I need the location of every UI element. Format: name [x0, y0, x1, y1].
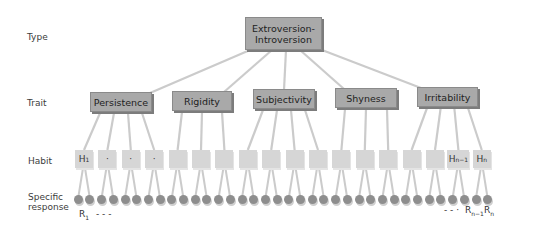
response-node [144, 195, 153, 204]
connector-line [172, 168, 177, 198]
trait-node-persistence: Persistence [90, 92, 152, 112]
response-node [238, 195, 247, 204]
connector-line [429, 168, 434, 198]
level-label-type: Type [27, 32, 48, 42]
connector-line [201, 112, 202, 150]
connector-line [219, 168, 224, 198]
hierarchy-diagram: Type Trait Habit Specific response Extro… [0, 0, 537, 235]
response-node [296, 195, 305, 204]
response-node [472, 195, 481, 204]
habit-node-last: Hn [473, 150, 491, 168]
connector-line [319, 168, 324, 198]
response-node [191, 195, 200, 204]
connector-line [336, 168, 341, 198]
connector-line [179, 168, 184, 198]
response-node [179, 195, 188, 204]
response-node [273, 195, 282, 204]
response-node [460, 195, 469, 204]
response-node [413, 195, 422, 204]
connector-line [435, 108, 441, 150]
connector-line [342, 168, 347, 198]
connector-line [382, 168, 387, 198]
habit-node [309, 150, 327, 168]
level-label-response: response [28, 202, 69, 212]
connector-line [125, 168, 130, 198]
type-node-line2: Introversion [255, 34, 312, 45]
connector-line [453, 168, 458, 198]
connector-line [312, 168, 317, 198]
connector-line [84, 113, 100, 150]
response-node [121, 195, 130, 204]
connector-line [389, 168, 394, 198]
response-node [226, 195, 235, 204]
connector-line [78, 168, 83, 198]
connector-line [289, 168, 294, 198]
connector-line [341, 109, 345, 150]
connector-line [406, 168, 411, 198]
habit-node-ellipsis: · [145, 150, 163, 168]
connector-line [249, 168, 254, 198]
connector-line [365, 109, 366, 150]
connector-line [132, 168, 137, 198]
connector-line [366, 168, 371, 198]
connector-line [272, 168, 277, 198]
response-node [74, 195, 83, 204]
connector-line [85, 168, 90, 198]
level-label-trait: Trait [27, 98, 46, 108]
habit-node [192, 150, 210, 168]
connector-line [412, 108, 427, 150]
habit-node [215, 150, 233, 168]
response-node [156, 195, 165, 204]
connector-line [242, 168, 247, 198]
connector-line [224, 50, 272, 92]
connector-line [476, 168, 481, 198]
connector-line [142, 113, 154, 150]
connector-line [150, 50, 250, 93]
habit-node-ellipsis: · [122, 150, 140, 168]
connector-line [436, 168, 441, 198]
connector-line [222, 112, 224, 150]
connector-line [108, 168, 113, 198]
habit-node [403, 150, 421, 168]
habit-node [286, 150, 304, 168]
response-node [390, 195, 399, 204]
type-node-extroversion-introversion: Extroversion- Introversion [245, 17, 322, 50]
level-label-specific: Specific [28, 192, 69, 202]
response-label-last: - - · Rn−1Rn [444, 205, 494, 217]
connector-line [107, 113, 114, 150]
level-label-specific-response: Specific response [28, 192, 69, 212]
connector-line [195, 168, 200, 198]
response-node [109, 195, 118, 204]
connector-line [284, 50, 286, 90]
connector-line [102, 168, 107, 198]
habit-node [332, 150, 350, 168]
response-node [261, 195, 270, 204]
connector-line [296, 168, 301, 198]
trait-node-rigidity: Rigidity [172, 91, 232, 111]
habit-node [426, 150, 444, 168]
connector-line [483, 168, 488, 198]
connector-line [459, 168, 464, 198]
habit-node [379, 150, 397, 168]
response-node [355, 195, 364, 204]
connector-line [148, 168, 153, 198]
habit-node-first: H1 [75, 150, 93, 168]
type-node-line1: Extroversion- [252, 23, 315, 34]
connector-line [225, 168, 230, 198]
response-node [378, 195, 387, 204]
trait-node-subjectivity: Subjectivity [253, 89, 315, 109]
connector-line [413, 168, 418, 198]
habit-node [262, 150, 280, 168]
habit-node [169, 150, 187, 168]
connector-line [291, 110, 295, 150]
connector-line [271, 110, 277, 150]
connector-line [178, 112, 182, 150]
connector-line [468, 108, 482, 150]
habit-node [239, 150, 257, 168]
habit-node-ellipsis: · [98, 150, 116, 168]
trait-node-irritability: Irritability [417, 87, 478, 107]
connector-line [265, 168, 270, 198]
connector-line [387, 109, 388, 150]
level-label-habit: Habit [28, 156, 52, 166]
connector-line [305, 110, 318, 150]
